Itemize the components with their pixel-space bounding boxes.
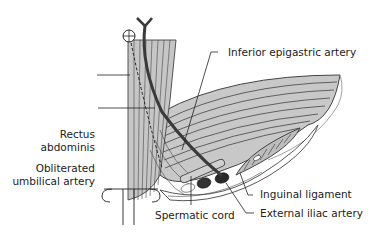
label-inferior-epigastric-artery: Inferior epigastric artery [228,46,356,59]
label-rectus-abdominis: Rectus abdominis [5,128,95,154]
label-rectus-line1: Rectus [5,128,95,141]
label-external-iliac-artery: External iliac artery [260,207,363,220]
label-obliterated-umbilical-artery: Obliterated umbilical artery [0,162,95,188]
label-rectus-line2: abdominis [5,141,95,154]
inguinal-anatomy-diagram [0,0,372,241]
label-spermatic-cord: Spermatic cord [155,209,235,222]
label-obliterated-line2: umbilical artery [0,175,95,188]
femoral-ring [180,182,196,193]
label-obliterated-line1: Obliterated [0,162,95,175]
umbilicus-icon [123,30,135,42]
label-inguinal-ligament: Inguinal ligament [260,188,352,201]
